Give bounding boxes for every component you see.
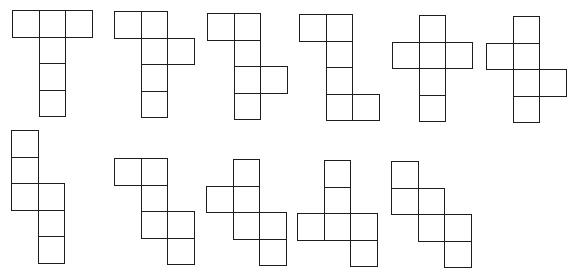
net-square [486,43,514,71]
net-square [324,160,352,188]
net-square [326,94,354,122]
net-square [350,213,378,241]
net-square [324,187,352,215]
net-square [513,16,541,44]
net-square [391,188,419,216]
net-square [352,94,380,122]
cube-net [0,0,570,275]
net-square [419,15,447,43]
net-square [444,241,472,269]
cube-net [0,0,570,275]
net-square [39,37,67,65]
net-square [350,240,378,268]
net-square [141,211,169,239]
net-square [419,95,447,123]
net-square [233,186,261,214]
net-square [418,214,446,242]
net-square [326,14,354,42]
net-square [141,158,169,186]
net-square [419,42,447,70]
net-square [513,69,541,97]
net-square [392,42,420,70]
net-square [39,90,67,118]
net-square [233,212,261,240]
net-square [234,40,262,68]
net-square [234,13,262,41]
net-square [206,186,234,214]
net-square [326,41,354,69]
net-square [141,38,169,66]
net-square [141,64,169,92]
net-square [299,14,327,42]
cube-net [0,0,570,275]
net-square [324,213,352,241]
cube-net [0,0,570,275]
net-square [167,238,195,266]
net-square [141,91,169,119]
net-square [418,188,446,216]
net-square [141,11,169,39]
net-square [39,10,67,38]
net-square [167,211,195,239]
net-square [513,43,541,71]
net-square [207,13,235,41]
net-square [297,213,325,241]
cube-net [0,0,570,275]
net-square [11,183,39,211]
cube-net [0,0,570,275]
net-square [234,66,262,94]
cube-net [0,0,570,275]
net-square [38,183,66,211]
net-square [326,67,354,95]
net-square [38,210,66,238]
net-square [11,130,39,158]
cube-nets-diagram [0,0,570,275]
cube-net [0,0,570,275]
net-square [11,157,39,185]
net-square [114,11,142,39]
net-square [513,96,541,124]
cube-net [0,0,570,275]
net-square [259,212,287,240]
net-square [391,161,419,189]
net-square [539,69,567,97]
net-square [114,158,142,186]
net-square [259,239,287,267]
cube-net [0,0,570,275]
net-square [39,63,67,91]
net-square [445,42,473,70]
cube-net [0,0,570,275]
net-square [444,214,472,242]
net-square [233,159,261,187]
net-square [419,68,447,96]
net-square [141,185,169,213]
net-square [234,93,262,121]
net-square [12,10,40,38]
net-square [167,38,195,66]
net-square [260,66,288,94]
net-square [38,236,66,264]
net-square [65,10,93,38]
